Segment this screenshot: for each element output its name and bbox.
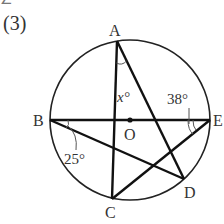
circle-geometry-diagram: A B C D E O x° 38° 25° xyxy=(0,0,224,224)
segment-ad xyxy=(117,41,184,179)
center-point-o xyxy=(127,117,132,122)
label-d: D xyxy=(184,184,196,201)
label-o: O xyxy=(124,126,136,143)
angle-label-38: 38° xyxy=(167,91,188,107)
segment-bd xyxy=(50,120,184,179)
angle-label-x: x° xyxy=(116,89,130,105)
label-c: C xyxy=(105,204,116,221)
label-e: E xyxy=(213,112,223,129)
label-a: A xyxy=(109,22,121,39)
label-b: B xyxy=(33,112,44,129)
angle-label-25: 25° xyxy=(64,151,85,167)
angle-arc-a xyxy=(116,61,126,64)
angle-arc-e-inner xyxy=(193,120,196,130)
